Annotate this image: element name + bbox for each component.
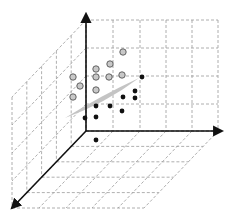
class-a-point <box>93 66 99 72</box>
class-b-point <box>140 75 145 80</box>
class-a-point <box>93 74 99 80</box>
grid-line <box>12 20 86 97</box>
class-b-point <box>121 95 126 100</box>
class-a-point <box>107 61 113 67</box>
class-a-point <box>70 74 76 80</box>
diagram-canvas <box>0 0 232 224</box>
axes <box>12 14 222 208</box>
class-a-point <box>70 94 76 100</box>
3d-scatter-plot <box>0 0 232 224</box>
class-a-point <box>93 87 99 93</box>
class-a-point <box>119 72 125 78</box>
class-b-point <box>94 104 99 109</box>
class-a-point <box>106 74 112 80</box>
class-b-point <box>120 109 125 114</box>
class-b-point <box>83 116 88 121</box>
class-b-point <box>94 115 99 120</box>
class-b-point <box>133 96 138 101</box>
class-b-point <box>108 104 113 109</box>
class-b-point <box>94 138 99 143</box>
class-b-point <box>133 89 138 94</box>
class-a-point <box>77 83 83 89</box>
grid-lines <box>12 20 218 208</box>
class-a-point <box>120 49 126 55</box>
